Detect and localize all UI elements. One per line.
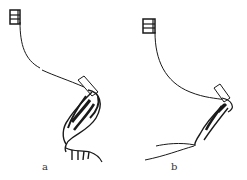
thread <box>42 70 84 87</box>
figure: a b <box>0 0 247 180</box>
thread <box>20 22 40 68</box>
diagram-drawing <box>0 0 247 180</box>
clamp-icon <box>10 10 20 24</box>
panel-label-b: b <box>171 161 177 172</box>
panel-a <box>10 10 102 162</box>
leg-flexed <box>63 76 102 162</box>
leg-extended <box>145 84 232 160</box>
panel-b <box>143 19 232 160</box>
panel-label-a: a <box>42 161 48 172</box>
clamp-icon <box>143 19 155 33</box>
